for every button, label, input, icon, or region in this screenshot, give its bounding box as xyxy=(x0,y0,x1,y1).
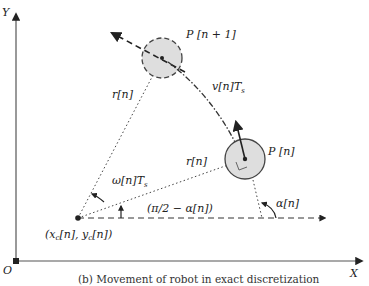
figure-caption: (b) Movement of robot in exact discretiz… xyxy=(78,273,320,285)
complement-angle-label: (π/2 − α[n]) xyxy=(147,202,213,215)
alpha-guide xyxy=(253,180,262,218)
robot-motion-diagram: Y X O P [n + 1] P [n] r[n] r[n] v[n]Ts ω… xyxy=(0,0,369,286)
velocity-label: v[n]Ts xyxy=(212,80,245,95)
origin-label: O xyxy=(3,264,12,277)
alpha-arrow xyxy=(262,203,276,218)
radius-label-right: r[n] xyxy=(186,155,208,168)
radius-label-top: r[n] xyxy=(112,88,134,101)
trajectory-arc xyxy=(168,62,238,148)
current-position-label: P [n] xyxy=(267,145,295,158)
center-label: (xc[n], yc[n]) xyxy=(45,228,112,242)
next-position-label: P [n + 1] xyxy=(185,28,236,41)
origin-point xyxy=(13,258,19,264)
y-axis-label: Y xyxy=(2,6,11,19)
radius-to-next xyxy=(78,58,162,218)
omega-arrow xyxy=(92,194,104,202)
angular-label: ω[n]Ts xyxy=(112,174,148,189)
rotation-center xyxy=(75,215,81,221)
alpha-label: α[n] xyxy=(276,197,300,210)
x-axis-label: X xyxy=(349,267,359,280)
